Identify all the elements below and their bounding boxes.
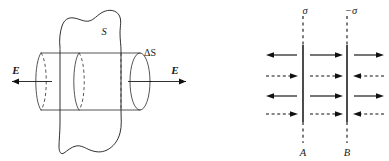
row4-middle-arrow (310, 111, 343, 116)
cylinder-mid-cap-front (74, 53, 79, 110)
field-label-E-right: E (170, 64, 178, 76)
row4-right-arrow (353, 111, 384, 116)
field-row-3 (266, 93, 384, 98)
field-arrow-left (12, 79, 34, 85)
row2-middle-arrow (310, 73, 343, 78)
row4-left-arrow (266, 111, 298, 116)
charge-label-sigma-b: −σ (345, 5, 358, 16)
plate-label-a: A (299, 147, 307, 158)
row1-right-arrow (354, 52, 384, 57)
row1-middle-arrow (310, 52, 343, 57)
field-row-2 (266, 73, 384, 78)
charge-label-sigma-a: σ (302, 5, 308, 16)
left-panel-group: S ΔS E E (11, 10, 186, 153)
surface-label-S: S (101, 26, 107, 37)
row3-left-arrow (266, 93, 297, 98)
plate-label-b: B (344, 147, 351, 158)
element-label-deltaS: ΔS (144, 47, 156, 58)
physics-figure: S ΔS E E (0, 0, 389, 161)
row1-left-arrow (266, 52, 297, 57)
field-row-1 (266, 52, 384, 57)
field-label-E-left: E (11, 64, 19, 76)
row3-right-arrow (354, 93, 384, 98)
irregular-surface-outline (59, 10, 121, 153)
row2-left-arrow (266, 73, 298, 78)
right-panel-group: σ −σ A B (266, 5, 384, 158)
cylinder-mid-cap-back-dashed (79, 53, 84, 110)
row3-middle-arrow (310, 93, 343, 98)
field-arrow-right (150, 79, 186, 85)
field-row-4 (266, 111, 384, 116)
figure-canvas: S ΔS E E (0, 0, 389, 161)
row2-right-arrow (353, 73, 384, 78)
